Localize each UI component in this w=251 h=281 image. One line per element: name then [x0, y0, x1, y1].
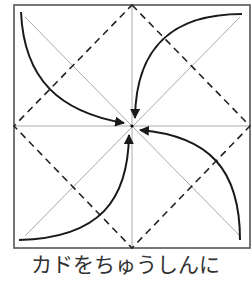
- center-dot: [130, 124, 133, 127]
- instruction-caption: カドをちゅうしんに: [0, 250, 251, 280]
- fold-diagram: [0, 0, 251, 252]
